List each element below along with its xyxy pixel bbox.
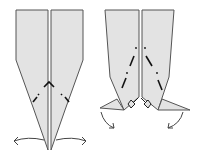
left-flap [105,10,139,110]
downward-arrows [101,112,183,128]
right-reverse-fold-tip [158,99,190,110]
step-2-figure [100,10,190,128]
right-flap [51,10,83,150]
outward-arrows [14,137,86,145]
origami-diagram [0,0,201,156]
right-flap [142,10,174,110]
step-1-figure [14,10,86,150]
left-flap [16,10,48,150]
